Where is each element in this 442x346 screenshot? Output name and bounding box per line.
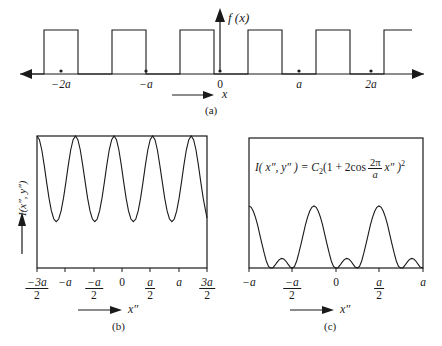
panel-c-tick-label-a: a xyxy=(420,276,426,288)
panel-b-xarrow-head xyxy=(110,306,122,314)
panel-b-tick-label-a: a xyxy=(176,276,182,288)
panel-c-tick-label-zero: 0 xyxy=(333,276,339,288)
x-arrow-head xyxy=(203,91,214,99)
equation-mid: (1 + 2cos xyxy=(323,161,366,173)
panel-c-graphic xyxy=(222,126,442,286)
panel-b-tick-label-minusa-2: −a 2 xyxy=(85,276,103,301)
panel-c: I( x″, y″ ) = C2(1 + 2cos 2π a x″ )2 −a … xyxy=(222,126,442,346)
panel-c-tick-label-minusa: −a xyxy=(242,276,256,288)
equation-lhs: I( x″, y″ ) = C xyxy=(255,161,319,173)
left-arrowhead xyxy=(20,69,32,79)
tick-dot xyxy=(297,69,300,72)
panel-c-equation: I( x″, y″ ) = C2(1 + 2cos 2π a x″ )2 xyxy=(255,157,405,180)
panel-c-curve xyxy=(249,206,423,268)
panel-a-tick-minus2a: −2a xyxy=(51,78,70,90)
panel-c-xarrow-head xyxy=(322,306,334,314)
panel-a-xaxis-label: x xyxy=(222,88,227,100)
tick-dot xyxy=(218,69,221,72)
panel-a-tick-a: a xyxy=(296,78,302,90)
panel-a: f (x) −2a −a 0 a 2a x (a) xyxy=(0,0,442,120)
panel-a-tick-minusa: −a xyxy=(139,78,153,90)
panel-b-caption: (b) xyxy=(112,320,125,332)
panel-c-caption: (c) xyxy=(324,320,336,332)
panel-b-tick-label-zero: 0 xyxy=(119,276,125,288)
panel-b-tick-label-a-2: a 2 xyxy=(145,276,155,301)
panel-c-tick-label-minusa-2: −a 2 xyxy=(283,276,301,301)
figure-root: f (x) −2a −a 0 a 2a x (a) xyxy=(0,0,442,346)
panel-b-graphic xyxy=(0,126,220,286)
panel-c-xaxis-label: x″ xyxy=(340,303,350,315)
panel-b-tick-label-minus3a-2: −3a 2 xyxy=(25,276,48,301)
f-axis-arrowhead xyxy=(215,8,225,22)
panel-a-graphic xyxy=(0,0,442,120)
right-arrowhead xyxy=(412,69,424,79)
panel-a-yaxis-label: f (x) xyxy=(228,11,249,24)
panel-b-xaxis-label: x″ xyxy=(128,303,138,315)
equation-var: x″ ) xyxy=(384,161,401,173)
panel-a-caption: (a) xyxy=(205,104,217,116)
panel-b-yaxis-label: I(x″, y″) xyxy=(16,181,28,216)
equation-fraction: 2π a xyxy=(368,157,383,180)
tick-dot xyxy=(144,69,147,72)
panel-b-tick-label-minusa: −a xyxy=(58,276,72,288)
tick-dot xyxy=(59,69,62,72)
tick-dot xyxy=(369,69,372,72)
panel-b-tick-label-3a-2: 3a 2 xyxy=(199,276,215,301)
panel-b: I(x″, y″) −3a 2 −a −a 2 0 a 2 a 3a 2 x″ … xyxy=(0,126,220,346)
panel-a-tick-2a: 2a xyxy=(365,78,377,90)
panel-b-curve xyxy=(37,136,207,222)
equation-exponent: 2 xyxy=(401,159,405,168)
panel-c-tick-label-a-2: a 2 xyxy=(374,276,384,301)
